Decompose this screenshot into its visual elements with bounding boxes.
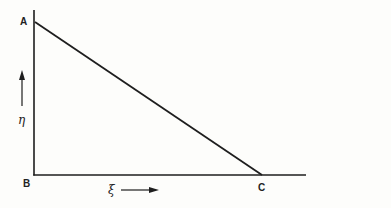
xi-arrow-icon [121, 187, 159, 193]
hypotenuse-ac [35, 22, 262, 175]
eta-arrow-icon [19, 70, 25, 106]
eta-label: η [18, 113, 26, 127]
vertex-label-a: A [20, 16, 27, 27]
vertex-label-b: B [23, 178, 30, 189]
vertex-label-c: C [258, 182, 265, 193]
xi-label: ξ [108, 183, 116, 197]
triangle-diagram: A B C η ξ [0, 0, 391, 208]
